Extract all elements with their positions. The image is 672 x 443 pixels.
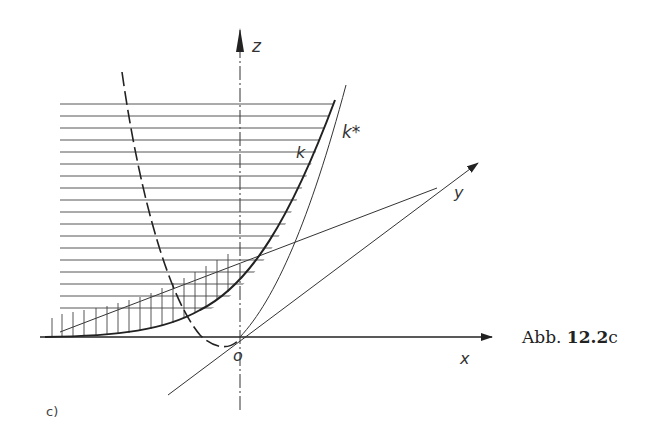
y-axis (168, 163, 478, 395)
subfigure-label: c) (46, 404, 58, 419)
curve-k-label: k (296, 143, 306, 162)
horizontal-hatching (60, 104, 340, 308)
curve-k-star-label: k* (342, 122, 360, 142)
z-axis-label: z (251, 36, 262, 56)
caption-suffix: c (608, 327, 618, 347)
x-axis-label: x (459, 349, 470, 368)
y-axis-label: y (453, 183, 464, 202)
curve-k-star (240, 85, 346, 337)
figure-canvas: z x y o k k* Abb. 12.2c c) (0, 0, 672, 443)
figure-caption: Abb. 12.2c (521, 327, 618, 347)
caption-prefix: Abb. (521, 327, 561, 347)
caption-number: 12.2 (567, 327, 608, 347)
curve-k (45, 100, 335, 337)
origin-label: o (233, 346, 243, 365)
